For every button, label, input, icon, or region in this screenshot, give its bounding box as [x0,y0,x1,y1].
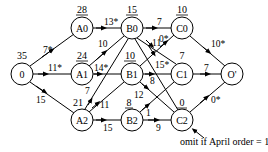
svg-text:A1: A1 [76,69,88,80]
node-value-A2: 21 [73,97,83,108]
edge-label-A2-B0: 7 [85,86,90,96]
edge-label-B2-C2: 9 [156,123,161,133]
node-value-0: 35 [17,50,27,61]
node-value-C2: 0 [180,97,185,108]
node-B0: B0 15 [121,4,143,39]
edge-label-B0-C1: 15* [155,60,170,70]
node-0: 0 35 [11,50,33,85]
edge-label-A2-B1: 11 [100,100,109,110]
node-value-B0: 15 [127,4,137,15]
edge-label-B1-C0: 0* [159,34,169,44]
edge-label-B1-C1: 8 [150,76,155,86]
edge-label-C0-O: 10* [211,39,226,49]
edge-label-0-A1: 11* [48,63,62,73]
edge-label-A1-B0: 10 [98,39,108,49]
edge-label-B1-C2: 12 [134,90,144,100]
node-value-B2: 8 [127,97,132,108]
edge-label-C2-O: 0* [211,95,221,105]
node-C2: C2 0 [171,97,193,131]
node-C1: C1 7 [171,50,193,85]
node-value-C0: 10 [177,4,187,15]
svg-text:B0: B0 [126,23,138,34]
svg-text:B1: B1 [126,69,138,80]
node-value-C1: 7 [180,50,185,61]
node-value-A1: 24 [77,50,87,61]
svg-text:A2: A2 [76,115,88,126]
node-C0: C0 10 [171,4,193,39]
svg-text:C0: C0 [176,23,188,34]
svg-text:B2: B2 [126,115,138,126]
node-value-B1: 10 [125,50,135,61]
edge-label-0-A0: 7* [43,45,53,55]
node-O-prime: O' [221,63,243,85]
svg-text:C1: C1 [176,69,188,80]
node-B2: B2 8 [121,97,143,131]
svg-text:0: 0 [20,69,25,80]
node-value-A0: 28 [77,4,87,15]
svg-text:C2: C2 [176,115,188,126]
edge-label-0-A2: 15 [36,95,46,105]
annotation: omit if April order = 1 [180,130,268,147]
svg-text:A0: A0 [76,23,88,34]
edge-label-B0-C0: 7 [157,17,162,27]
edge-label-A2-B2: 15 [103,123,113,133]
svg-text:O': O' [227,69,236,80]
network-diagram: 7* 11* 15 13* 10 14* 7 11 15 [0,0,268,152]
annotation-text: omit if April order = 1 [180,136,268,147]
edge-label-A1-B1: 14* [94,63,109,73]
edge-label-C1-O: 7 [204,63,209,73]
node-B1: B1 10 [121,50,143,85]
edge-label-A0-B0: 13* [104,17,119,27]
edge-label-B2-C1: 1 [146,108,151,118]
node-A0: A0 28 [71,4,93,39]
node-A1: A1 24 [71,50,93,85]
